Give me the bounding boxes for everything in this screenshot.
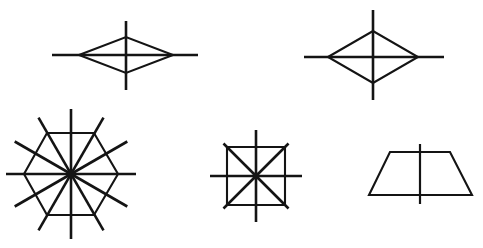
figure-1-group — [52, 21, 198, 90]
figure-3-group — [6, 109, 136, 239]
figure-4-center-point — [253, 173, 260, 180]
figure-flat-rhombus — [0, 0, 483, 248]
figure-4-group — [210, 130, 302, 222]
figure-sheet — [0, 0, 483, 248]
figure-5-group — [369, 144, 472, 204]
figure-3-center-point — [67, 170, 76, 179]
figure-2-group — [304, 10, 444, 100]
